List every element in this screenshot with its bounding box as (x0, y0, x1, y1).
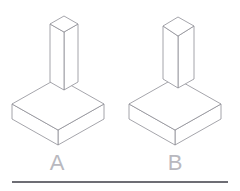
figure-b-column-left-face (163, 26, 178, 88)
figure-a-base (12, 78, 104, 145)
figure-a-group: A (12, 16, 104, 175)
figure-b-base (129, 78, 221, 145)
figure-a-column (50, 16, 78, 90)
isometric-drawing-canvas: A B (0, 0, 240, 191)
isometric-figure-page: A B (0, 0, 240, 191)
figure-a-column-right-face (64, 24, 78, 90)
figure-b-label: B (168, 150, 183, 175)
figure-a-label: A (50, 150, 65, 175)
figure-b-column (163, 17, 194, 88)
figure-b-column-right-face (178, 26, 194, 88)
figure-a-column-left-face (50, 24, 64, 90)
figure-b-group: B (129, 17, 221, 175)
